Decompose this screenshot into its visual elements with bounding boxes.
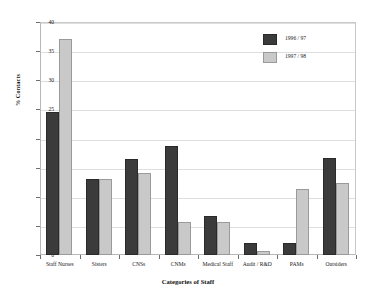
bar [138,173,151,255]
bar [125,159,138,255]
bar [59,39,72,255]
x-tick-mark [317,255,318,259]
legend-label: 1996 / 97 [285,35,306,41]
bar [296,189,309,255]
bar [217,222,230,255]
bar [178,222,191,255]
bar [283,243,296,255]
bar-group [317,22,357,255]
x-tick-mark [238,255,239,259]
bar [204,216,217,255]
bar [257,251,270,255]
x-axis-title: Categories of Staff [0,278,376,285]
bar [46,112,59,255]
legend-label: 1997 / 98 [285,53,306,59]
y-axis-title: % Contacts [14,50,21,130]
x-tick-mark [40,255,41,259]
bar [323,158,336,255]
x-tick-label: Outsiders [306,261,366,267]
x-tick-mark [80,255,81,259]
bar [336,183,349,255]
bar-chart: % Contacts 0510152025303540 Staff Nurses… [0,0,376,304]
bar-group [159,22,199,255]
legend-swatch [263,34,277,45]
x-tick-mark [277,255,278,259]
bar [86,179,99,255]
bar-group [198,22,238,255]
bars-layer [40,22,356,255]
x-tick-mark [159,255,160,259]
bar-group [80,22,120,255]
bar [244,243,257,255]
bar [99,179,112,255]
x-tick-mark [119,255,120,259]
bar [165,146,178,256]
legend-swatch [263,52,277,63]
x-tick-mark [356,255,357,259]
x-tick-mark [198,255,199,259]
bar-group [119,22,159,255]
bar-group [40,22,80,255]
